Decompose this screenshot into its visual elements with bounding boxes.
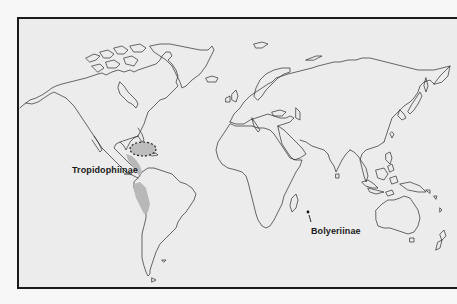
australia-outline [376, 196, 446, 250]
africa-outline [216, 124, 302, 228]
north-america-outline [20, 44, 218, 178]
maritime-southeast-asia [362, 152, 442, 212]
mauritius-dot [307, 211, 310, 214]
western-south-america-range-shading [134, 182, 150, 214]
caribbean-range-dashed-outline [130, 142, 156, 156]
bolyeriinae-marker [307, 211, 311, 222]
south-america-outline [134, 168, 196, 282]
tropidophiinae-label: Tropidophiinae [72, 165, 138, 175]
tropidophiinae-range [126, 142, 156, 214]
bolyeriinae-leader-line [309, 215, 311, 222]
eurasia-outline [226, 42, 450, 182]
bolyeriinae-label: Bolyeriinae [311, 226, 361, 236]
